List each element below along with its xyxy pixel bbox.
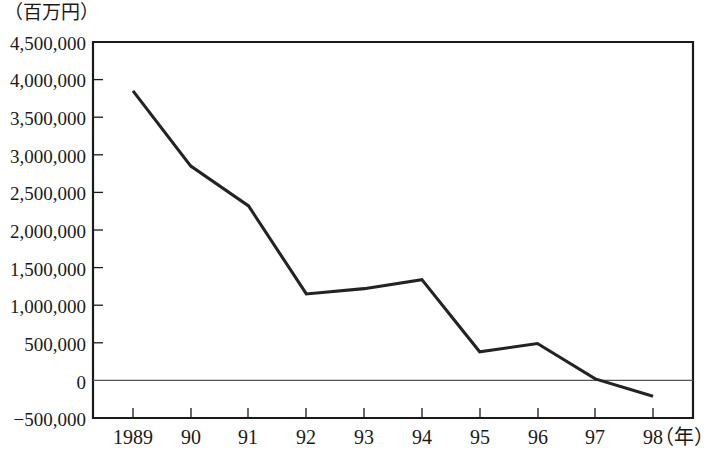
- x-tick-label: 95: [470, 425, 490, 449]
- x-tick-label: 94: [412, 425, 432, 449]
- plot-frame: [93, 42, 693, 418]
- x-tick-label: 1989: [113, 425, 153, 449]
- x-tick-label: 90: [181, 425, 201, 449]
- line-chart: （百万円） 4,500,000 4,000,000 3,500,000 3,00…: [0, 0, 709, 465]
- x-axis-unit-label: （年）: [654, 425, 709, 449]
- x-tick-label: 96: [528, 425, 548, 449]
- x-axis-tick-labels: 1989 90 91 92 93 94 95 96 97 98 （年）: [0, 425, 709, 459]
- series-line: [133, 91, 653, 396]
- x-tick-label: 92: [296, 425, 316, 449]
- plot-area: [0, 0, 709, 465]
- x-tick-label: 97: [585, 425, 605, 449]
- x-tick-label: 91: [238, 425, 258, 449]
- x-tick-label: 93: [354, 425, 374, 449]
